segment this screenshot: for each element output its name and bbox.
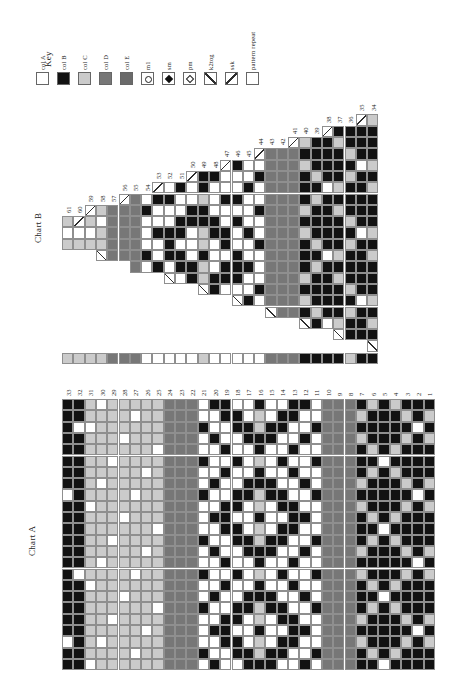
chart-cell xyxy=(152,546,163,557)
chart-cell xyxy=(288,580,299,591)
chart-cell xyxy=(277,273,288,284)
chart-cell xyxy=(220,444,231,455)
chart-cell xyxy=(73,648,84,659)
chart-cell xyxy=(401,467,412,478)
chart-cell xyxy=(85,399,96,410)
chart-cell xyxy=(322,467,333,478)
chart-cell xyxy=(220,250,231,261)
chart-cell xyxy=(378,422,389,433)
chart-cell xyxy=(311,216,322,227)
chart-cell xyxy=(277,261,288,272)
chart-cell xyxy=(198,410,209,421)
chart-cell xyxy=(378,433,389,444)
chart-cell xyxy=(164,489,175,500)
chart-cell-k2tog xyxy=(198,284,209,295)
chart-cell xyxy=(73,410,84,421)
chart-cell xyxy=(164,250,175,261)
chart-cell-ssk xyxy=(254,148,265,159)
row-number: 50 xyxy=(189,161,196,168)
chart-cell xyxy=(243,250,254,261)
chart-cell xyxy=(265,614,276,625)
chart-cell xyxy=(175,273,186,284)
chart-cell xyxy=(299,250,310,261)
chart-cell xyxy=(367,614,378,625)
chart-cell xyxy=(119,636,130,647)
chart-cell xyxy=(311,399,322,410)
chart-cell xyxy=(367,227,378,238)
chart-cell xyxy=(424,512,435,523)
chart-cell xyxy=(424,422,435,433)
chart-cell xyxy=(288,227,299,238)
chart-cell xyxy=(175,614,186,625)
chart-cell xyxy=(96,659,107,670)
chart-cell xyxy=(345,444,356,455)
chart-cell xyxy=(186,239,197,250)
chart-cell xyxy=(243,648,254,659)
chart-cell xyxy=(288,512,299,523)
row-number: 26 xyxy=(144,390,151,397)
chart-cell xyxy=(96,535,107,546)
chart-cell xyxy=(62,422,73,433)
chart-cell xyxy=(277,614,288,625)
chart-cell xyxy=(333,512,344,523)
chart-cell xyxy=(232,444,243,455)
chart-cell xyxy=(299,456,310,467)
chart-cell xyxy=(209,239,220,250)
chart-cell xyxy=(254,614,265,625)
chart-cell xyxy=(73,399,84,410)
row-number: 37 xyxy=(336,116,343,123)
chart-cell xyxy=(265,273,276,284)
chart-cell xyxy=(356,318,367,329)
chart-cell xyxy=(62,602,73,613)
chart-cell xyxy=(345,239,356,250)
chart-cell xyxy=(265,171,276,182)
chart-cell xyxy=(288,591,299,602)
chart-cell xyxy=(367,422,378,433)
chart-cell xyxy=(130,467,141,478)
chart-cell xyxy=(141,614,152,625)
chart-cell xyxy=(220,239,231,250)
chart-cell xyxy=(367,444,378,455)
chart-cell xyxy=(85,489,96,500)
chart-cell xyxy=(198,614,209,625)
chart-cell xyxy=(152,535,163,546)
chart-cell xyxy=(254,444,265,455)
chart-cell xyxy=(62,614,73,625)
chart-cell xyxy=(198,467,209,478)
strip-cell xyxy=(141,353,152,364)
chart-cell xyxy=(186,512,197,523)
chart-cell xyxy=(345,557,356,568)
chart-cell xyxy=(130,625,141,636)
chart-cell xyxy=(401,569,412,580)
chart-cell xyxy=(356,636,367,647)
chart-cell xyxy=(378,602,389,613)
row-number: 7 xyxy=(358,393,365,396)
chart-cell xyxy=(265,205,276,216)
chart-cell xyxy=(119,625,130,636)
chart-cell xyxy=(265,636,276,647)
chart-cell xyxy=(119,399,130,410)
chart-cell xyxy=(96,399,107,410)
chart-cell xyxy=(412,489,423,500)
chart-cell xyxy=(401,523,412,534)
chart-cell xyxy=(299,602,310,613)
chart-cell xyxy=(299,546,310,557)
strip-cell xyxy=(265,353,276,364)
chart-cell xyxy=(220,171,231,182)
chart-cell xyxy=(73,422,84,433)
chart-cell xyxy=(243,444,254,455)
chart-cell xyxy=(390,478,401,489)
chart-cell xyxy=(119,535,130,546)
chart-cell xyxy=(367,478,378,489)
chart-cell xyxy=(232,399,243,410)
chart-cell xyxy=(311,182,322,193)
chart-cell xyxy=(299,512,310,523)
chart-cell xyxy=(311,580,322,591)
strip-cell xyxy=(198,353,209,364)
chart-cell xyxy=(130,648,141,659)
chart-cell xyxy=(356,410,367,421)
chart-cell xyxy=(141,557,152,568)
chart-cell xyxy=(277,227,288,238)
chart-cell xyxy=(164,216,175,227)
chart-cell xyxy=(232,478,243,489)
